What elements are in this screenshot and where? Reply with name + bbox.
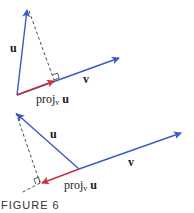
label-proj: projvu — [36, 92, 69, 107]
vector-u — [17, 10, 27, 95]
figure-6-diagram: u v projvu u v projvu FIGURE 6 — [0, 0, 194, 213]
label-proj: projvu — [64, 178, 97, 193]
top-diagram: u v projvu — [10, 10, 119, 107]
label-v: v — [83, 72, 89, 86]
bottom-diagram: u v projvu — [16, 113, 181, 193]
label-u: u — [50, 127, 57, 141]
right-angle-marker-edge — [34, 179, 36, 184]
label-v: v — [128, 155, 134, 169]
dashed-extension — [21, 183, 40, 193]
vector-u — [17, 114, 79, 169]
label-u: u — [10, 41, 17, 55]
figure-caption: FIGURE 6 — [1, 199, 60, 211]
dashed-perpendicular — [29, 11, 54, 80]
